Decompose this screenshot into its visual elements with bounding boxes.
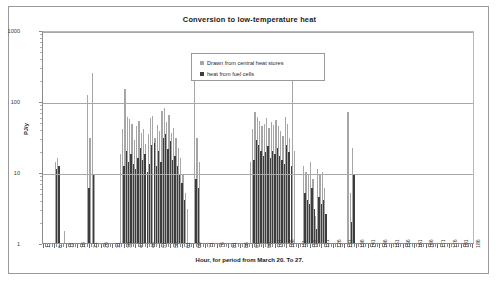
x-axis-tick bbox=[261, 244, 262, 247]
y-axis-minor-tick bbox=[40, 109, 42, 110]
x-axis-tick bbox=[110, 244, 111, 247]
bar-fuel-cells bbox=[311, 188, 312, 243]
y-axis-minor-tick bbox=[40, 152, 42, 153]
x-axis-major-tick bbox=[182, 244, 183, 248]
bar-fuel-cells bbox=[158, 151, 159, 243]
x-axis-tick-label: 91 bbox=[254, 242, 260, 248]
bar-fuel-cells bbox=[318, 197, 319, 243]
y-axis-tick-label: 1 bbox=[0, 241, 20, 247]
y-axis-minor-tick bbox=[40, 105, 42, 106]
x-axis-major-tick bbox=[344, 244, 345, 248]
bar-fuel-cells bbox=[260, 151, 261, 243]
x-axis-tick-label: 61 bbox=[185, 242, 191, 248]
x-axis-tick-label: 76 bbox=[219, 242, 225, 248]
y-axis-tick-label: 10 bbox=[0, 170, 20, 176]
x-axis-major-tick bbox=[112, 244, 113, 248]
x-axis-tick-label: 31 bbox=[115, 242, 121, 248]
y-axis-minor-tick bbox=[40, 176, 42, 177]
x-axis-major-tick bbox=[193, 244, 194, 248]
x-axis-tick bbox=[133, 244, 134, 247]
x-axis-tick-label: 171 bbox=[440, 239, 446, 248]
bar-fuel-cells bbox=[93, 175, 94, 243]
x-axis-major-tick bbox=[426, 244, 427, 248]
x-axis-tick-label: 101 bbox=[277, 239, 283, 248]
bar-fuel-cells bbox=[288, 152, 289, 243]
x-axis-tick-label: 126 bbox=[336, 239, 342, 248]
bar-central-heat-stores bbox=[294, 151, 295, 243]
x-axis-tick bbox=[145, 244, 146, 247]
x-axis-major-tick bbox=[310, 244, 311, 248]
x-axis-tick bbox=[180, 244, 181, 247]
x-axis-tick-label: 111 bbox=[301, 240, 307, 248]
legend-label-fuel-cells: heat from fuel cells bbox=[207, 71, 254, 77]
bar-fuel-cells bbox=[272, 151, 273, 243]
bar-fuel-cells bbox=[156, 166, 157, 243]
bar-fuel-cells bbox=[274, 154, 275, 243]
bar-fuel-cells bbox=[291, 166, 292, 243]
x-axis-tick bbox=[284, 244, 285, 247]
x-axis-tick-label: 66 bbox=[196, 242, 202, 248]
legend-swatch-central-heat-stores bbox=[200, 61, 204, 65]
bar-central-heat-stores bbox=[64, 231, 65, 244]
x-axis-tick-label: 116 bbox=[312, 240, 318, 248]
x-axis-tick bbox=[423, 244, 424, 247]
x-axis-title: Hour, for period from March 20. To 27. bbox=[9, 257, 490, 263]
x-axis-tick bbox=[52, 244, 53, 247]
bar-central-heat-stores bbox=[347, 112, 348, 243]
y-axis-tick bbox=[39, 173, 42, 174]
x-axis-tick bbox=[238, 244, 239, 247]
x-axis-tick-label: 96 bbox=[266, 242, 272, 248]
x-axis-tick bbox=[203, 244, 204, 247]
x-axis-major-tick bbox=[298, 244, 299, 248]
x-axis-tick bbox=[435, 244, 436, 247]
bar-fuel-cells bbox=[130, 154, 131, 243]
y-axis-minor-tick bbox=[40, 38, 42, 39]
x-axis-major-tick bbox=[321, 244, 322, 248]
bar-fuel-cells bbox=[323, 200, 324, 243]
x-axis-tick-label: 146 bbox=[382, 239, 388, 248]
bar-fuel-cells bbox=[140, 148, 141, 243]
x-axis-tick-label: 186 bbox=[475, 239, 481, 248]
x-axis-tick-label: 71 bbox=[208, 242, 214, 248]
x-axis-major-tick bbox=[391, 244, 392, 248]
x-axis-major-tick bbox=[66, 244, 67, 248]
bar-fuel-cells bbox=[304, 193, 305, 243]
bar-fuel-cells bbox=[126, 151, 127, 243]
x-axis-tick bbox=[307, 244, 308, 247]
x-axis-tick bbox=[98, 244, 99, 247]
bar-fuel-cells bbox=[137, 158, 138, 243]
x-axis-major-tick bbox=[101, 244, 102, 248]
y-axis-tick-label: 100 bbox=[0, 99, 20, 105]
x-axis-major-tick bbox=[77, 244, 78, 248]
bar-fuel-cells bbox=[179, 175, 180, 243]
bar-fuel-cells bbox=[286, 145, 287, 243]
y-axis-tick bbox=[39, 31, 42, 32]
y-axis-minor-tick bbox=[40, 194, 42, 195]
x-axis-tick bbox=[412, 244, 413, 247]
bar-fuel-cells bbox=[281, 160, 282, 244]
bar-central-heat-stores bbox=[187, 209, 188, 243]
x-axis-tick bbox=[156, 244, 157, 247]
x-axis-tick bbox=[272, 244, 273, 247]
x-axis-major-tick bbox=[159, 244, 160, 248]
x-axis-tick bbox=[319, 244, 320, 247]
bar-fuel-cells bbox=[181, 183, 182, 243]
x-axis-major-tick bbox=[89, 244, 90, 248]
x-axis-tick-label: 26 bbox=[103, 242, 109, 248]
y-axis-minor-tick bbox=[40, 130, 42, 131]
x-axis-major-tick bbox=[147, 244, 148, 248]
bar-fuel-cells bbox=[309, 204, 310, 243]
x-axis-tick bbox=[63, 244, 64, 247]
x-axis-tick bbox=[75, 244, 76, 247]
x-axis-tick bbox=[400, 244, 401, 247]
bar-fuel-cells bbox=[142, 160, 143, 244]
x-axis-tick-label: 161 bbox=[417, 239, 423, 248]
x-axis-major-tick bbox=[124, 244, 125, 248]
x-axis-tick bbox=[458, 244, 459, 247]
bar-fuel-cells bbox=[133, 164, 134, 243]
x-axis-major-tick bbox=[286, 244, 287, 248]
x-axis-tick-label: 46 bbox=[150, 242, 156, 248]
legend-item: Drawn from central heat stores bbox=[200, 57, 324, 68]
x-axis-major-tick bbox=[449, 244, 450, 248]
bar-fuel-cells bbox=[170, 141, 171, 243]
